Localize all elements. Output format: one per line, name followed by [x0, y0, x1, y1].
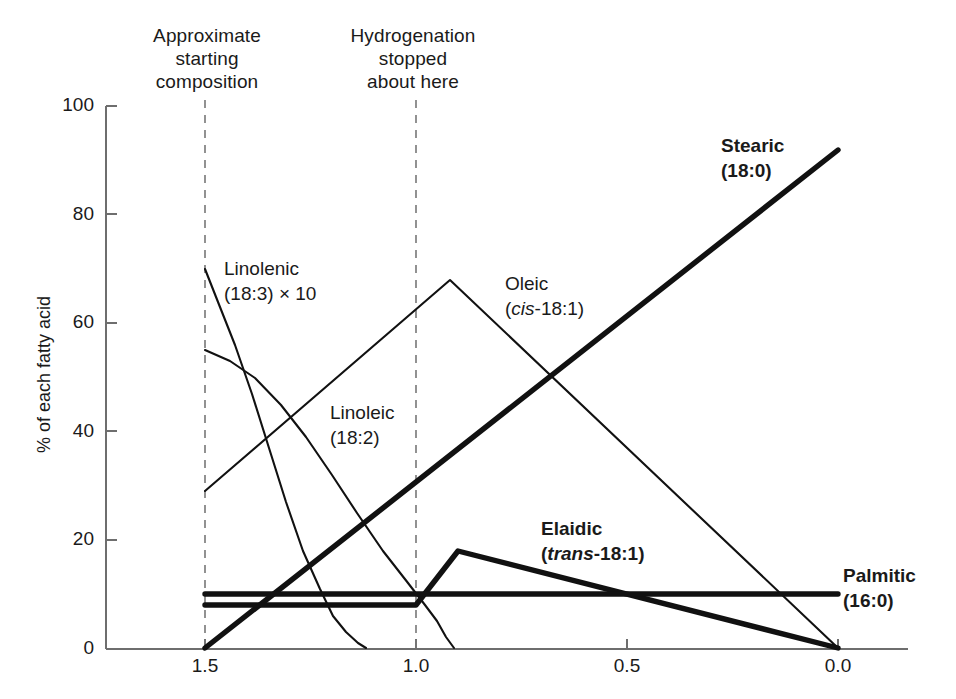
oleic-chain: -18:1) — [535, 298, 585, 319]
y-axis-title: % of each fatty acid — [34, 265, 55, 485]
y-tick-80: 80 — [52, 203, 94, 225]
series-label-stearic: Stearic (18:0) — [721, 133, 784, 183]
x-tick-0-5: 0.5 — [597, 655, 657, 677]
y-tick-40: 40 — [52, 420, 94, 442]
series-label-palmitic-formula: (16:0) — [843, 588, 916, 613]
annotation-starting-composition: Approximate starting composition — [118, 24, 296, 93]
series-label-elaidic: Elaidic (trans-18:1) — [541, 516, 644, 566]
series-linolenic — [205, 269, 366, 648]
series-label-linolenic-formula: (18:3) × 10 — [224, 281, 316, 306]
elaidic-isomer: trans — [547, 543, 593, 564]
series-label-oleic-formula: (cis-18:1) — [505, 296, 584, 321]
series-label-stearic-name: Stearic — [721, 133, 784, 158]
x-tick-1-0: 1.0 — [386, 655, 446, 677]
series-label-elaidic-formula: (trans-18:1) — [541, 541, 644, 566]
x-tick-0-0: 0.0 — [808, 655, 868, 677]
y-tick-60: 60 — [52, 311, 94, 333]
y-tick-0: 0 — [52, 637, 94, 659]
y-axis-ticks — [106, 106, 117, 649]
y-tick-20: 20 — [52, 528, 94, 550]
annotation-hydrogenation-stopped: Hydrogenation stopped about here — [322, 24, 504, 93]
y-tick-100: 100 — [52, 94, 94, 116]
series-label-elaidic-name: Elaidic — [541, 516, 644, 541]
series-label-oleic: Oleic (cis-18:1) — [505, 271, 584, 321]
series-label-linoleic-name: Linoleic — [330, 400, 394, 425]
series-label-palmitic: Palmitic (16:0) — [843, 563, 916, 613]
series-label-palmitic-name: Palmitic — [843, 563, 916, 588]
series-elaidic — [205, 551, 838, 648]
x-axis-ticks — [205, 639, 838, 649]
data-series — [205, 150, 838, 648]
series-label-linolenic: Linolenic (18:3) × 10 — [224, 256, 316, 306]
fatty-acid-hydrogenation-chart: Approximate starting composition Hydroge… — [0, 0, 956, 699]
series-label-oleic-name: Oleic — [505, 271, 584, 296]
x-tick-1-5: 1.5 — [175, 655, 235, 677]
series-label-linoleic-formula: (18:2) — [330, 425, 394, 450]
series-stearic — [205, 150, 838, 648]
series-label-linolenic-name: Linolenic — [224, 256, 316, 281]
oleic-isomer: cis — [511, 298, 534, 319]
chart-plot-area — [0, 0, 956, 699]
series-label-stearic-formula: (18:0) — [721, 158, 784, 183]
series-label-linoleic: Linoleic (18:2) — [330, 400, 394, 450]
elaidic-chain: -18:1) — [594, 543, 645, 564]
